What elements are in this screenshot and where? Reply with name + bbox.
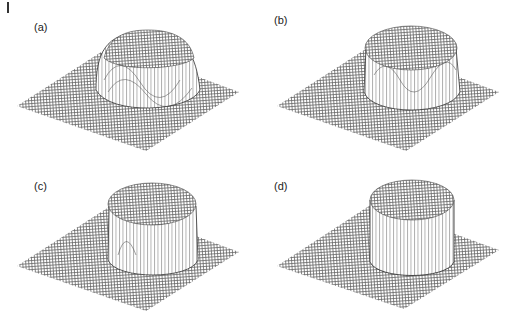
surface-plot-b bbox=[260, 0, 517, 160]
panel-a: (a) bbox=[0, 0, 258, 160]
surface-plot-c bbox=[0, 160, 258, 320]
panel-c: (c) bbox=[0, 160, 258, 320]
surface-plot-d bbox=[260, 160, 517, 320]
panel-d: (d) bbox=[260, 160, 517, 320]
panel-b: (b) bbox=[260, 0, 517, 160]
surface-plot-a bbox=[0, 0, 258, 160]
